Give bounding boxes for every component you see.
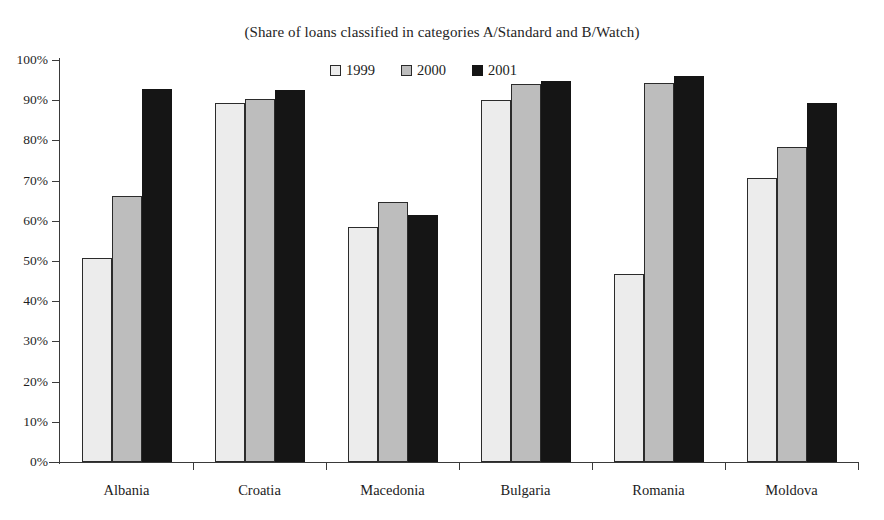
bar-moldova-2001 [807,103,837,462]
bar-bulgaria-2001 [541,81,571,462]
category-label-albania: Albania [104,482,150,499]
y-tick-label: 100% [17,52,49,68]
chart-page: (Share of loans classified in categories… [0,0,884,520]
bar-romania-1999 [614,274,644,462]
bar-bulgaria-1999 [481,100,511,462]
bar-bulgaria-2000 [511,84,541,462]
category-label-macedonia: Macedonia [360,482,424,499]
bar-albania-2001 [142,89,172,462]
y-tick-label: 40% [23,293,48,309]
bar-albania-1999 [82,258,112,462]
plot-area [60,60,858,462]
category-label-moldova: Moldova [765,482,817,499]
x-tick-mark [858,462,859,470]
x-tick-mark [459,462,460,470]
bar-romania-2001 [674,76,704,462]
x-tick-mark [193,462,194,470]
y-tick-mark [52,100,60,101]
x-tick-mark [725,462,726,470]
y-tick-mark [52,341,60,342]
x-tick-mark [326,462,327,470]
y-tick-label: 30% [23,333,48,349]
y-tick-label: 50% [23,253,48,269]
bar-albania-2000 [112,196,142,462]
chart-title: (Share of loans classified in categories… [0,24,884,41]
y-tick-mark [52,181,60,182]
bar-macedonia-2000 [378,202,408,462]
category-label-romania: Romania [632,482,684,499]
bar-croatia-2000 [245,99,275,462]
category-label-croatia: Croatia [238,482,281,499]
x-axis-line [49,462,859,463]
y-tick-mark [52,301,60,302]
y-tick-label: 90% [23,92,48,108]
y-tick-mark [52,382,60,383]
y-tick-mark [52,462,60,463]
y-tick-mark [52,140,60,141]
bar-romania-2000 [644,83,674,462]
category-label-bulgaria: Bulgaria [501,482,551,499]
y-tick-mark [52,261,60,262]
y-tick-label: 20% [23,374,48,390]
bar-moldova-1999 [747,178,777,462]
bar-macedonia-1999 [348,227,378,462]
x-tick-mark [592,462,593,470]
y-tick-mark [52,60,60,61]
bar-macedonia-2001 [408,215,438,462]
y-tick-mark [52,221,60,222]
bar-moldova-2000 [777,147,807,462]
y-tick-label: 80% [23,132,48,148]
y-tick-label: 70% [23,173,48,189]
y-tick-label: 60% [23,213,48,229]
bar-croatia-1999 [215,103,245,462]
y-tick-mark [52,422,60,423]
bar-croatia-2001 [275,90,305,462]
y-tick-label: 0% [30,454,48,470]
y-tick-label: 10% [23,414,48,430]
